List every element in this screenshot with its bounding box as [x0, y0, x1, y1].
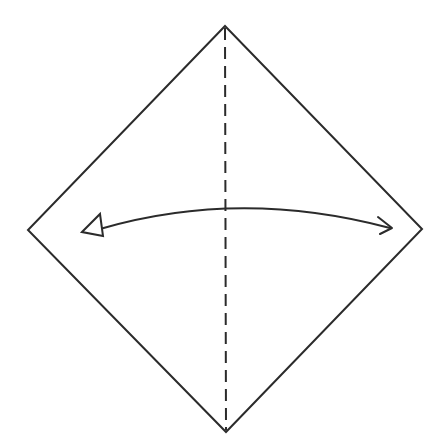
origami-diagram	[0, 0, 442, 440]
diagram-svg	[0, 0, 442, 440]
